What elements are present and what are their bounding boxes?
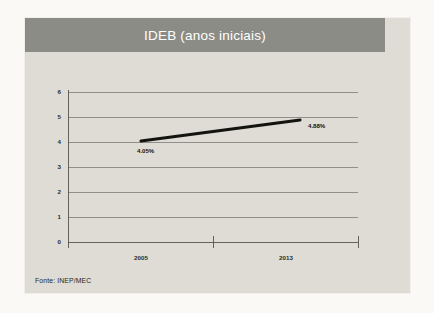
x-axis-tick-labels: 2005 2013 [134, 254, 293, 261]
line-chart: 6 5 4 3 2 1 0 2005 2013 4.05% 4.88% [25, 52, 410, 293]
x-tick-label-2013: 2013 [279, 254, 293, 261]
data-label-2005: 4.05% [137, 147, 155, 154]
chart-slide-card: IDEB (anos iniciais) [25, 18, 410, 293]
gridlines [68, 92, 358, 217]
x-tick-label-2005: 2005 [134, 254, 148, 261]
y-tick-label-6: 6 [58, 88, 62, 95]
y-tick-label-0: 0 [58, 238, 62, 245]
y-tick-label-1: 1 [58, 213, 62, 220]
y-tick-label-5: 5 [58, 113, 62, 120]
chart-plot-area: 6 5 4 3 2 1 0 2005 2013 4.05% 4.88% [25, 52, 410, 293]
y-tick-label-4: 4 [58, 138, 62, 145]
data-series-line [141, 120, 300, 141]
y-axis-tick-labels: 6 5 4 3 2 1 0 [58, 88, 62, 245]
y-tick-label-2: 2 [58, 188, 62, 195]
source-note: Fonte: INEP/MEC [35, 277, 91, 284]
data-label-2013: 4.88% [308, 122, 326, 129]
chart-title-bar: IDEB (anos iniciais) [25, 18, 385, 52]
page-title: IDEB (anos iniciais) [144, 28, 266, 43]
y-tick-label-3: 3 [58, 163, 62, 170]
